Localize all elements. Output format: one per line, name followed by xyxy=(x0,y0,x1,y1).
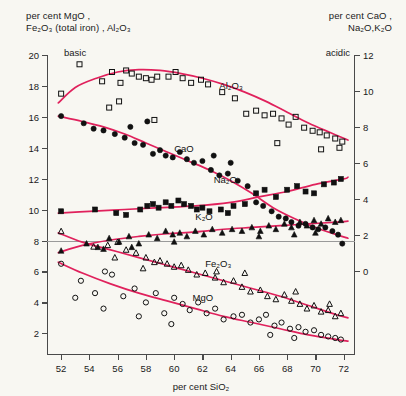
data-point-k2o xyxy=(170,232,176,238)
data-point-al2o3 xyxy=(333,136,338,141)
data-point-na2o xyxy=(114,211,119,216)
data-point-mgo xyxy=(109,272,114,277)
data-point-mgo xyxy=(239,312,244,317)
axis-tick xyxy=(355,127,360,128)
data-point-mgo xyxy=(221,317,226,322)
axis-tick xyxy=(202,355,203,360)
data-point-fe2o3 xyxy=(112,254,118,260)
data-point-k2o xyxy=(163,228,169,234)
data-point-cao xyxy=(228,160,233,165)
data-point-na2o xyxy=(93,207,98,212)
axis-tick-label: 2 xyxy=(363,229,368,240)
data-point-mgo xyxy=(287,326,292,331)
data-point-al2o3 xyxy=(310,128,315,133)
data-point-fe2o3 xyxy=(123,247,129,253)
axis-tick-label: 16 xyxy=(28,111,39,122)
data-point-fe2o3 xyxy=(338,310,344,316)
data-point-fe2o3 xyxy=(248,289,254,295)
data-point-na2o xyxy=(200,205,205,210)
data-point-al2o3 xyxy=(129,71,134,76)
data-point-cao xyxy=(340,241,345,246)
data-point-al2o3 xyxy=(319,147,324,152)
data-point-fe2o3 xyxy=(332,313,338,319)
data-point-cao xyxy=(59,113,64,118)
data-point-mgo xyxy=(102,269,107,274)
data-point-na2o xyxy=(231,203,236,208)
axis-tick-label: 68 xyxy=(282,363,293,374)
data-point-k2o xyxy=(338,217,344,223)
data-point-fe2o3 xyxy=(133,250,139,256)
data-point-fe2o3 xyxy=(289,298,295,304)
data-point-cao xyxy=(211,153,216,158)
data-point-mgo xyxy=(303,329,308,334)
data-point-fe2o3 xyxy=(293,289,299,295)
data-point-mgo xyxy=(248,320,253,325)
data-point-cao xyxy=(310,225,315,230)
data-point-na2o xyxy=(59,209,64,214)
data-point-al2o3 xyxy=(173,70,178,75)
data-point-na2o xyxy=(225,211,230,216)
data-point-na2o xyxy=(312,191,317,196)
data-point-cao xyxy=(101,128,106,133)
data-point-fe2o3 xyxy=(311,302,317,308)
data-point-cao xyxy=(208,167,213,172)
data-point-al2o3 xyxy=(152,117,157,122)
axis-tick xyxy=(315,355,316,360)
series-label-cao: CaO xyxy=(174,143,194,154)
data-point-al2o3 xyxy=(124,68,129,73)
data-point-fe2o3 xyxy=(242,270,248,276)
data-point-cao xyxy=(184,157,189,162)
axis-tick xyxy=(355,235,360,236)
axis-tick-label: 70 xyxy=(310,363,321,374)
data-point-na2o xyxy=(321,182,326,187)
left-axis-header-line2: Fe₂O₃ (total iron) , Al₂O₃ xyxy=(26,22,131,34)
data-point-mgo xyxy=(204,311,209,316)
data-point-k2o xyxy=(325,215,331,221)
data-point-k2o xyxy=(136,241,142,247)
axis-tick xyxy=(259,355,260,360)
left-axis-header: per cent MgO , Fe₂O₃ (total iron) , Al₂O… xyxy=(26,10,131,34)
data-point-cao xyxy=(157,148,162,153)
data-point-al2o3 xyxy=(317,130,322,135)
series-label-mgo: MgO xyxy=(193,292,214,303)
data-point-fe2o3 xyxy=(318,309,324,315)
data-point-fe2o3 xyxy=(273,296,279,302)
data-point-fe2o3 xyxy=(194,271,200,277)
data-point-na2o xyxy=(169,203,174,208)
data-point-mgo xyxy=(292,335,297,340)
data-point-al2o3 xyxy=(232,96,237,101)
data-point-cao xyxy=(269,209,274,214)
data-point-na2o xyxy=(338,176,343,181)
data-point-mgo xyxy=(326,334,331,339)
data-point-k2o xyxy=(249,224,255,230)
data-point-fe2o3 xyxy=(140,265,146,271)
data-point-al2o3 xyxy=(109,70,114,75)
axis-tick-label: 12 xyxy=(363,50,374,61)
data-point-mgo xyxy=(187,308,192,313)
data-point-k2o xyxy=(171,239,177,245)
data-point-mgo xyxy=(143,300,148,305)
data-point-fe2o3 xyxy=(202,270,208,276)
data-point-al2o3 xyxy=(271,111,276,116)
data-point-k2o xyxy=(318,221,324,227)
data-point-na2o xyxy=(285,187,290,192)
axis-tick xyxy=(146,355,147,360)
data-point-na2o xyxy=(295,184,300,189)
data-point-k2o xyxy=(193,228,199,234)
data-point-mgo xyxy=(169,321,174,326)
data-point-na2o xyxy=(303,189,308,194)
axis-tick xyxy=(287,355,288,360)
data-point-mgo xyxy=(92,291,97,296)
data-point-k2o xyxy=(239,228,245,234)
series-label-na2o: Na₂O xyxy=(214,174,237,185)
data-point-mgo xyxy=(311,328,316,333)
data-point-mgo xyxy=(263,312,268,317)
axis-tick xyxy=(174,355,175,360)
data-point-al2o3 xyxy=(206,82,211,87)
data-point-mgo xyxy=(153,291,158,296)
data-point-fe2o3 xyxy=(304,306,310,312)
figure-canvas: per cent MgO , Fe₂O₃ (total iron) , Al₂O… xyxy=(0,0,406,396)
data-point-na2o xyxy=(273,194,278,199)
data-point-al2o3 xyxy=(189,80,194,85)
data-point-k2o xyxy=(257,228,263,234)
